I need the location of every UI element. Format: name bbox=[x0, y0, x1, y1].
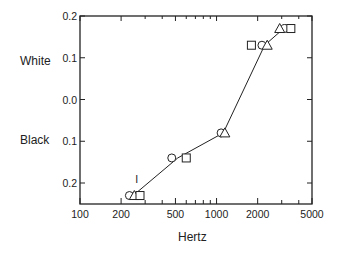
y-tick-label: 0.2 bbox=[62, 10, 77, 22]
x-tick-label: 100 bbox=[71, 208, 89, 220]
chart: 0.20.10.00.10.2100200500100020005000I bbox=[0, 0, 344, 253]
plot-frame bbox=[80, 16, 312, 204]
square-marker bbox=[136, 192, 144, 200]
x-tick-label: 2000 bbox=[246, 208, 270, 220]
x-tick-label: 500 bbox=[167, 208, 185, 220]
black-label: Black bbox=[20, 133, 49, 147]
square-marker bbox=[247, 41, 255, 49]
annotation-mark: I bbox=[135, 173, 138, 185]
square-marker bbox=[182, 154, 190, 162]
x-tick-label: 200 bbox=[112, 208, 130, 220]
data-line bbox=[133, 29, 284, 196]
square-marker bbox=[287, 25, 295, 33]
circle-marker bbox=[168, 154, 176, 162]
y-tick-label: 0.1 bbox=[62, 135, 77, 147]
y-tick-label: 0.1 bbox=[62, 52, 77, 64]
x-tick-label: 5000 bbox=[300, 208, 324, 220]
white-label: White bbox=[20, 54, 51, 68]
x-tick-label: 1000 bbox=[205, 208, 229, 220]
y-tick-label: 0.0 bbox=[62, 94, 77, 106]
x-axis-label: Hertz bbox=[178, 230, 207, 244]
y-tick-label: 0.2 bbox=[62, 177, 77, 189]
